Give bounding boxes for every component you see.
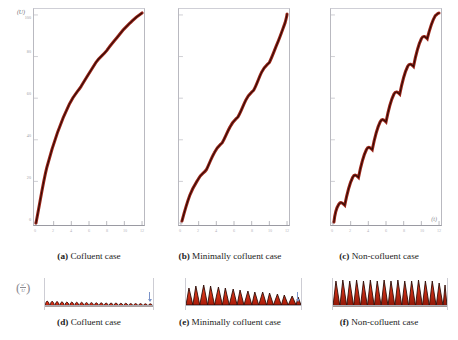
caption-f-tag: (f)	[340, 317, 349, 327]
caption-f-label: Non-cofluent case	[351, 317, 418, 327]
plot-frame-a	[33, 8, 145, 226]
plot-frame-d	[44, 278, 154, 310]
caption-b-tag: (b)	[179, 251, 190, 261]
panel-f-plot	[332, 278, 448, 310]
caption-d-tag: (d)	[57, 317, 68, 327]
x-axis-label: (t)	[431, 216, 437, 222]
marker-arrow-e	[297, 292, 298, 301]
curve-c	[331, 9, 441, 225]
ratio-axis-label: (u'U)	[16, 281, 30, 294]
caption-d-label: Cofluent case	[71, 317, 121, 327]
caption-a-label: Cofluent case	[70, 251, 120, 261]
curve-b	[179, 9, 289, 225]
curve-a	[34, 9, 144, 225]
figure-panel-grid: (U) 0 20 40 60 80 100	[0, 0, 458, 340]
baseline-e	[186, 305, 301, 306]
plot-frame-c: (t)	[330, 8, 442, 226]
tick-marks	[34, 15, 142, 225]
caption-e-tag: (e)	[179, 317, 189, 327]
x-tick-labels-b: 024 681012	[178, 228, 290, 236]
caption-b-label: Minimally cofluent case	[192, 251, 281, 261]
caption-c: (c) Non-cofluent case	[300, 251, 458, 261]
panel-a-plot	[33, 8, 145, 226]
panel-b-plot	[178, 8, 290, 226]
caption-c-label: Non-cofluent case	[352, 251, 419, 261]
plot-frame-e	[185, 278, 302, 310]
baseline-f	[333, 305, 447, 306]
caption-c-tag: (c)	[339, 251, 349, 261]
caption-e: (e) Minimally cofluent case	[150, 317, 310, 327]
paren-close: )	[26, 280, 30, 295]
x-tick-labels-a: 024 681012	[33, 228, 145, 236]
plot-frame-b	[178, 8, 290, 226]
caption-f: (f) Non-cofluent case	[300, 317, 458, 327]
baseline-d	[45, 305, 153, 306]
panel-d-plot	[44, 278, 154, 310]
caption-b: (b) Minimally cofluent case	[150, 251, 310, 261]
panel-c-plot: (t)	[330, 8, 442, 226]
caption-e-label: Minimally cofluent case	[192, 317, 281, 327]
plot-frame-f	[332, 278, 448, 310]
marker-arrow-d	[149, 292, 150, 301]
top-row: (U) 0 20 40 60 80 100	[0, 0, 458, 248]
panel-e-plot	[185, 278, 302, 310]
y-tick-labels: 0 20 40 60 80 100	[11, 8, 31, 226]
caption-a-tag: (a)	[57, 251, 68, 261]
x-tick-labels-c: 024 681012	[330, 228, 442, 236]
